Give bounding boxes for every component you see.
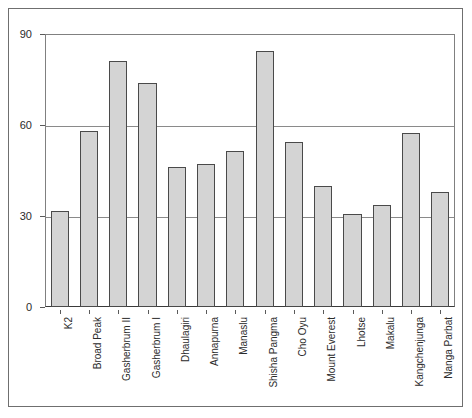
x-tick-mark <box>323 310 324 314</box>
bar <box>285 142 303 307</box>
x-tick-mark <box>353 310 354 314</box>
x-tick-mark <box>118 310 119 314</box>
x-tick-label: Lhotse <box>357 317 367 347</box>
x-tick-mark <box>411 310 412 314</box>
x-tick-label: Makalu <box>386 317 396 349</box>
x-tick-mark <box>89 310 90 314</box>
x-tick-label: K2 <box>64 317 74 329</box>
bar <box>402 133 420 307</box>
x-tick-label: Kangchenjunga <box>415 317 425 387</box>
bar <box>80 131 98 307</box>
x-axis-labels: K2Broad PeakGasherbrum IIGasherbrum IDha… <box>45 310 455 408</box>
bar <box>314 186 332 307</box>
bar-chart-figure: 0306090 K2Broad PeakGasherbrum IIGasherb… <box>0 0 472 418</box>
bar <box>431 192 449 307</box>
x-tick-label: Dhaulagiri <box>181 317 191 362</box>
bar <box>138 83 156 307</box>
x-tick-label: Broad Peak <box>93 317 103 369</box>
x-tick-mark <box>148 310 149 314</box>
x-tick-mark <box>382 310 383 314</box>
x-tick-mark <box>177 310 178 314</box>
bar <box>226 151 244 307</box>
bar <box>168 167 186 307</box>
y-tick-label-60: 60 <box>4 120 32 131</box>
y-tick-label-90: 90 <box>4 29 32 40</box>
x-tick-label: Shisha Pangma <box>269 317 279 388</box>
x-tick-mark <box>265 310 266 314</box>
x-tick-label: Cho Oyu <box>298 317 308 356</box>
x-tick-label: Mount Everest <box>327 317 337 381</box>
x-tick-label: Manaslu <box>239 317 249 355</box>
x-tick-mark <box>60 310 61 314</box>
bar <box>109 61 127 307</box>
x-tick-mark <box>440 310 441 314</box>
y-tick-mark-0 <box>40 307 45 308</box>
x-tick-mark <box>206 310 207 314</box>
bar <box>51 211 69 307</box>
y-tick-label-30: 30 <box>4 211 32 222</box>
x-tick-mark <box>235 310 236 314</box>
x-tick-label: Gasherbrum II <box>122 317 132 381</box>
bar <box>373 205 391 307</box>
x-tick-label: Gasherbrum I <box>152 317 162 378</box>
bars-layer <box>45 34 455 307</box>
x-tick-mark <box>294 310 295 314</box>
bar <box>197 164 215 307</box>
bar <box>343 214 361 307</box>
bar <box>256 51 274 307</box>
x-tick-label: Annapurna <box>210 317 220 366</box>
x-tick-label: Nanga Parbat <box>444 317 454 379</box>
y-tick-label-0: 0 <box>4 302 32 313</box>
